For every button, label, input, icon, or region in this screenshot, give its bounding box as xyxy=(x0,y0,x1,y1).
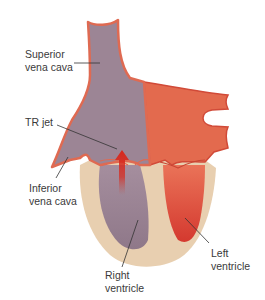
left-atrium xyxy=(144,82,228,165)
superior-vena-cava-label: Superior vena cava xyxy=(25,48,73,73)
right-ventricle-label: Right ventricle xyxy=(105,269,144,294)
tr-jet-label: TR jet xyxy=(25,116,53,129)
inferior-vena-cava-label: Inferior vena cava xyxy=(29,182,77,207)
left-ventricle-label: Left ventricle xyxy=(211,247,250,272)
right-atrium-venae-cavae xyxy=(52,20,150,167)
